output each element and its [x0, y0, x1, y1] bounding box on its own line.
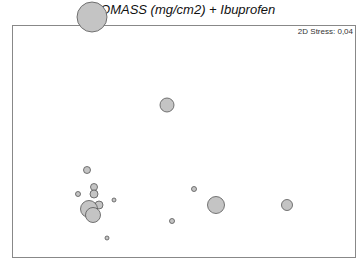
- data-bubble: [170, 219, 175, 224]
- bubble-layer: [76, 2, 293, 240]
- data-bubble: [192, 187, 197, 192]
- stress-annotation: 2D Stress: 0,04: [298, 27, 353, 36]
- data-bubble: [91, 184, 98, 191]
- data-bubble: [112, 198, 116, 202]
- data-bubble: [84, 167, 91, 174]
- data-bubble: [160, 98, 174, 112]
- data-bubble: [282, 200, 293, 211]
- data-bubble: [90, 190, 98, 198]
- data-bubble: [208, 197, 225, 214]
- data-bubble: [77, 2, 107, 32]
- data-bubble: [76, 192, 81, 197]
- plot-area: [0, 0, 363, 267]
- data-bubble: [86, 208, 101, 223]
- plot-frame: [13, 26, 356, 258]
- data-bubble: [105, 236, 109, 240]
